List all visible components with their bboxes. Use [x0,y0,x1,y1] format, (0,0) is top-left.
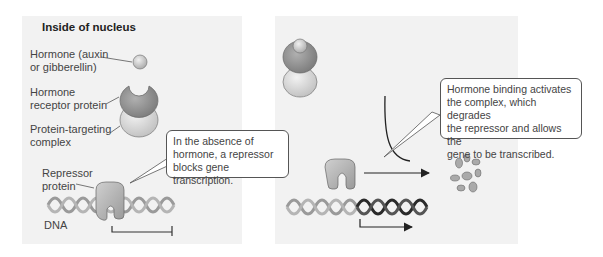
dna-helix-right [287,200,427,214]
panel-title: Inside of nucleus [42,21,136,33]
callout-hormone-binding: Hormone binding activates the complex, w… [440,78,582,139]
label-targeting-complex: Protein-targeting complex [30,123,111,149]
hormone-receptor-protein [120,86,158,117]
hormone-molecule [133,55,147,69]
blocked-transcription-bracket [112,226,172,236]
label-dna: DNA [44,219,67,232]
transcription-arrow [360,219,412,227]
label-receptor: Hormone receptor protein [30,86,107,112]
label-hormone: Hormone (auxin or gibberellin) [30,48,108,74]
repressor-protein-right [325,159,355,189]
complex-action-arrow [385,96,410,161]
callout-no-hormone: In the absence of hormone, a repressor b… [166,130,289,178]
label-repressor: Repressor protein [42,167,93,193]
activated-complex [283,39,317,97]
repressor-protein [96,182,124,220]
